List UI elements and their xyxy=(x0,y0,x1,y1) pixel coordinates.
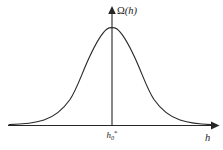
bell-curve-figure: Ω(h) h h0* xyxy=(0,0,223,150)
y-axis-arrow-icon xyxy=(108,6,116,14)
y-axis-label-paren-close: ) xyxy=(133,5,138,17)
x-axis-label: h xyxy=(205,132,210,143)
peak-tick-superscript: * xyxy=(114,129,118,136)
gaussian-curve xyxy=(9,28,211,125)
y-axis-label-omega: Ω xyxy=(117,5,125,16)
x-axis-arrow-icon xyxy=(211,122,220,130)
peak-tick-label: h0* xyxy=(107,129,119,142)
y-axis-label: Ω(h) xyxy=(117,5,138,17)
